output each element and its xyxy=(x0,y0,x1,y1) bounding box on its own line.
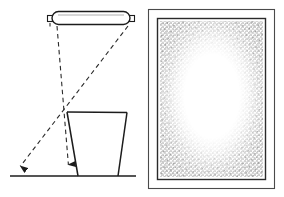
trapezoidal-vessel xyxy=(67,112,127,176)
figure-canvas xyxy=(0,0,284,197)
vertical-projection-ray xyxy=(57,26,68,165)
vessel-left-wall xyxy=(67,112,78,176)
lamp-tube-body xyxy=(52,12,130,25)
stipple-layer-secondary xyxy=(160,21,263,177)
stipple-field xyxy=(160,21,263,177)
vessel-right-wall xyxy=(118,113,127,177)
figure-root xyxy=(0,0,284,197)
vessel-rim xyxy=(67,112,127,113)
lamp-projection-diagram xyxy=(10,12,136,177)
diagonal-projection-ray xyxy=(21,26,128,166)
illumination-pattern xyxy=(149,10,275,189)
projection-rays xyxy=(21,26,128,166)
fluorescent-lamp xyxy=(48,12,135,27)
